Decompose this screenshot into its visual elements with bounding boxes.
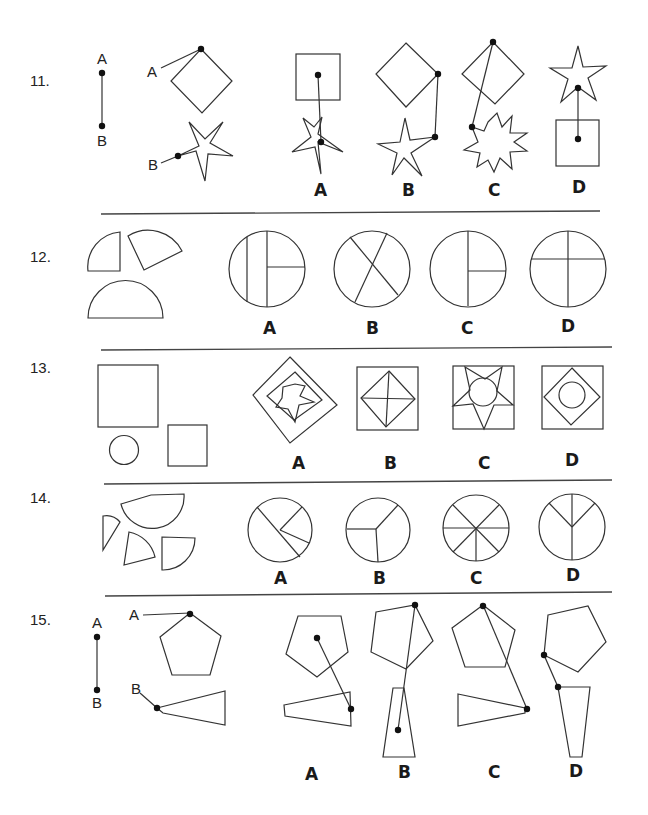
question-11: 11. A B A B A [30, 39, 606, 200]
prompt-trapezoid: B [131, 680, 225, 725]
option-d[interactable]: D [542, 366, 603, 470]
question-15: 15. A B A B A [30, 602, 606, 784]
option-label: B [402, 180, 415, 200]
option-label: D [572, 177, 586, 197]
shape-label-a: A [147, 63, 157, 80]
option-label: A [305, 764, 319, 784]
option-label: D [569, 761, 583, 781]
worksheet: 11. A B A B A [0, 0, 648, 815]
option-b[interactable]: B [376, 43, 441, 200]
shape-label-b: B [148, 156, 158, 173]
question-12: 12. A B C D [30, 230, 606, 338]
option-c[interactable]: C [430, 231, 506, 338]
separator [101, 211, 600, 214]
question-13: 13. A B C D [30, 357, 603, 473]
prompt-pieces [98, 365, 207, 466]
prompt-pieces [103, 494, 195, 570]
option-label: B [384, 453, 397, 473]
option-label: D [565, 450, 579, 470]
option-b[interactable]: B [371, 602, 433, 782]
option-d[interactable]: D [530, 231, 606, 336]
option-b[interactable]: B [357, 367, 418, 473]
reference-segment: A B [97, 50, 107, 149]
option-a[interactable]: A [284, 616, 354, 784]
shape-label-b: B [131, 680, 141, 697]
option-label: B [373, 568, 386, 588]
question-14: 14. A B C [30, 489, 605, 588]
option-a[interactable]: A [292, 54, 343, 200]
option-label: D [561, 316, 575, 336]
question-number: 12. [30, 248, 51, 265]
option-label: B [398, 762, 411, 782]
shape-label-a: A [129, 606, 139, 623]
option-label: C [478, 453, 490, 473]
option-label: A [292, 453, 306, 473]
question-number: 11. [30, 72, 50, 89]
option-label: B [366, 318, 379, 338]
prompt-diamond: A [147, 46, 232, 113]
option-a[interactable]: A [248, 498, 312, 588]
option-label: C [461, 318, 473, 338]
point-label-b: B [92, 694, 102, 711]
option-a[interactable]: A [229, 231, 305, 338]
option-label: A [274, 568, 288, 588]
separator [101, 347, 612, 350]
point-label-a: A [92, 614, 102, 631]
question-number: 14. [30, 489, 51, 506]
option-label: C [470, 568, 482, 588]
option-d[interactable]: D [539, 494, 605, 585]
option-label: A [263, 318, 277, 338]
question-number: 15. [30, 611, 51, 628]
question-number: 13. [30, 359, 51, 376]
option-a[interactable]: A [253, 357, 337, 473]
option-label: A [314, 180, 328, 200]
point-label-b: B [97, 132, 107, 149]
prompt-star: B [148, 122, 233, 181]
separator [104, 480, 612, 484]
separator [105, 592, 612, 596]
option-label: D [566, 565, 580, 585]
prompt-pieces [88, 230, 182, 318]
reference-segment: A B [92, 614, 102, 711]
option-d[interactable]: D [541, 606, 606, 781]
prompt-pentagon: A [129, 606, 221, 675]
option-label: C [488, 762, 500, 782]
point-label-a: A [97, 50, 107, 67]
option-c[interactable]: C [462, 39, 527, 200]
option-c[interactable]: C [453, 366, 514, 473]
option-label: C [488, 180, 500, 200]
option-b[interactable]: B [346, 498, 410, 588]
option-d[interactable]: D [550, 46, 606, 197]
option-c[interactable]: C [452, 603, 530, 782]
option-b[interactable]: B [334, 231, 410, 338]
option-c[interactable]: C [443, 495, 509, 588]
